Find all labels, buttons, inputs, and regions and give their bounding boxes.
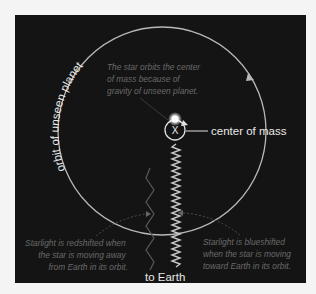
blueshift-pointer [183, 213, 240, 235]
redshift-note: Starlight is redshifted when the star is… [25, 238, 128, 272]
doppler-diagram: orbit of unseen planet The star orbits t… [0, 0, 316, 294]
center-marker: X [172, 125, 179, 136]
orbit-arrow-icon [246, 73, 254, 81]
redshift-arrow-icon [146, 211, 151, 217]
star-orbit-arrow-icon [181, 120, 188, 126]
blueshift-wave [172, 144, 180, 267]
center-of-mass-label: center of mass [211, 125, 287, 137]
orbit-label: orbit of unseen planet [48, 59, 85, 174]
star-orbit-note: The star orbits the center of mass becau… [107, 62, 202, 96]
star-core [172, 116, 179, 123]
redshift-wave [146, 168, 154, 270]
blueshift-note: Starlight is blueshifted when the star i… [203, 237, 293, 271]
to-earth-label: to Earth [145, 271, 185, 283]
note-pointer [140, 98, 168, 120]
